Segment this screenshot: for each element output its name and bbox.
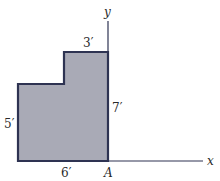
x-axis-label: x: [207, 154, 214, 168]
dimension-bottom-width: 6′: [61, 166, 72, 180]
y-axis-label: y: [103, 5, 111, 19]
dimension-right-height: 7′: [112, 101, 123, 115]
dimension-top-width: 3′: [83, 36, 94, 50]
dimension-left-height: 5′: [4, 117, 15, 131]
origin-label: A: [103, 166, 113, 180]
shaded-region: [18, 52, 108, 161]
diagram-canvas: y x A 3′ 7′ 5′ 6′: [0, 0, 220, 181]
